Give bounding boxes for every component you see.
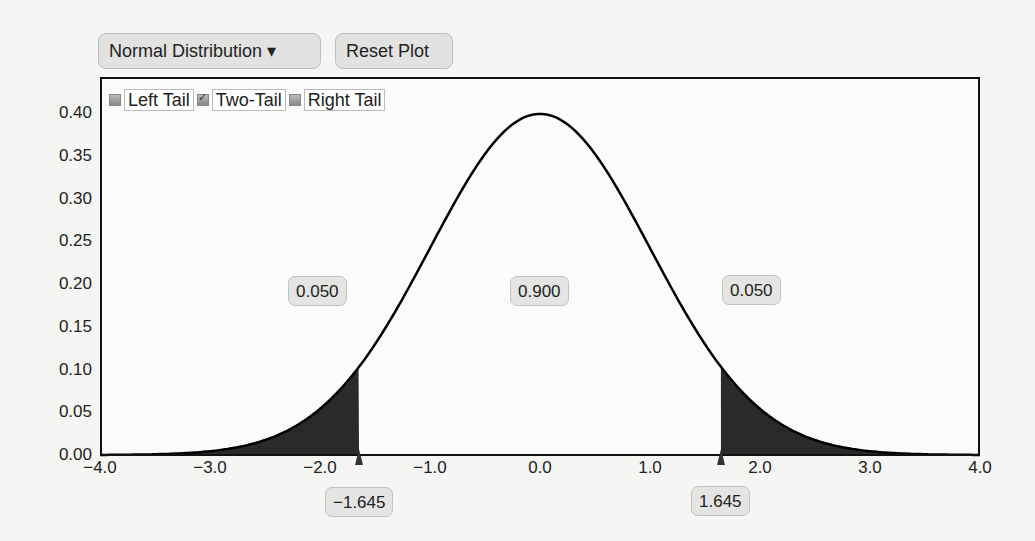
y-tick-label: 0.10 xyxy=(12,360,92,380)
x-tick-label: −4.0 xyxy=(70,458,130,478)
x-tick-label: 2.0 xyxy=(730,458,790,478)
x-tick-label: −2.0 xyxy=(290,458,350,478)
x-tick-label: 1.0 xyxy=(620,458,680,478)
y-tick-label: 0.25 xyxy=(12,231,92,251)
center-area-label: 0.900 xyxy=(510,276,569,306)
right-tail-shade xyxy=(721,367,980,455)
tail-options: Left Tail Two-Tail Right Tail xyxy=(106,89,385,111)
left-area-label: 0.050 xyxy=(288,276,347,306)
left-tail-shade xyxy=(100,368,359,455)
x-tick-label: 0.0 xyxy=(510,458,570,478)
y-tick-label: 0.15 xyxy=(12,317,92,337)
y-tick-label: 0.20 xyxy=(12,274,92,294)
two-tail-label[interactable]: Two-Tail xyxy=(212,89,286,111)
y-tick-label: 0.35 xyxy=(12,146,92,166)
upper-critical-value[interactable]: 1.645 xyxy=(691,486,750,516)
x-tick-label: −1.0 xyxy=(400,458,460,478)
x-tick-label: 4.0 xyxy=(950,458,1010,478)
left-tail-label[interactable]: Left Tail xyxy=(124,89,194,111)
left-tail-checkbox[interactable] xyxy=(109,94,121,106)
y-tick-label: 0.05 xyxy=(12,402,92,422)
two-tail-checkbox[interactable] xyxy=(197,94,209,106)
x-tick-label: −3.0 xyxy=(180,458,240,478)
right-area-label: 0.050 xyxy=(722,275,781,305)
y-tick-label: 0.30 xyxy=(12,189,92,209)
lower-critical-value[interactable]: −1.645 xyxy=(325,487,393,517)
right-tail-label[interactable]: Right Tail xyxy=(304,89,386,111)
y-tick-label: 0.40 xyxy=(12,103,92,123)
x-tick-label: 3.0 xyxy=(840,458,900,478)
right-tail-checkbox[interactable] xyxy=(289,94,301,106)
